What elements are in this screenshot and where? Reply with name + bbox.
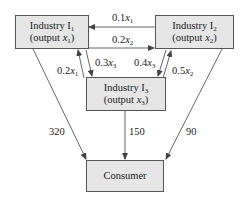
node-title: Consumer bbox=[87, 170, 163, 182]
label-i3-to-i2: 0.5x2 bbox=[172, 65, 193, 77]
label-i1-to-i3: 0.3x3 bbox=[95, 57, 116, 69]
label-i2-to-i3: 0.4x3 bbox=[134, 57, 155, 69]
label-i3-to-i1: 0.2x1 bbox=[57, 65, 78, 77]
node-output: (output x3) bbox=[87, 94, 165, 106]
node-industry-2: Industry I2 (output x2) bbox=[155, 15, 234, 49]
node-industry-3: Industry I3 (output x3) bbox=[86, 77, 166, 111]
node-consumer: Consumer bbox=[86, 160, 164, 192]
node-title: Industry I3 bbox=[87, 82, 165, 94]
label-i1-to-consumer: 320 bbox=[49, 126, 65, 138]
label-i1-to-i2: 0.2x2 bbox=[112, 34, 133, 46]
node-title: Industry I1 bbox=[16, 20, 88, 32]
node-title: Industry I2 bbox=[156, 20, 233, 32]
label-i3-to-consumer: 150 bbox=[129, 126, 145, 138]
node-output: (output x2) bbox=[156, 32, 233, 44]
label-i2-to-consumer: 90 bbox=[186, 126, 197, 138]
edge-i3-to-i1 bbox=[78, 50, 84, 78]
node-industry-1: Industry I1 (output x1) bbox=[15, 15, 89, 49]
node-output: (output x1) bbox=[16, 32, 88, 44]
label-i2-to-i1: 0.1x1 bbox=[112, 12, 133, 24]
edge-i1-to-i3 bbox=[86, 50, 92, 76]
